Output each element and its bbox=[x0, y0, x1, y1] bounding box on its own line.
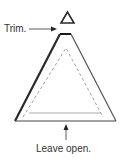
small-triangle-icon bbox=[61, 12, 74, 23]
right-side-edge bbox=[71, 34, 116, 121]
left-side-edge bbox=[15, 34, 60, 121]
trim-label: Trim. bbox=[4, 24, 26, 34]
trimmed-triangle-diagram: Trim. Leave open. bbox=[0, 0, 135, 162]
leave-open-arrowhead-icon bbox=[64, 124, 69, 130]
trim-arrowhead-icon bbox=[51, 27, 57, 32]
leave-open-label: Leave open. bbox=[36, 144, 91, 154]
